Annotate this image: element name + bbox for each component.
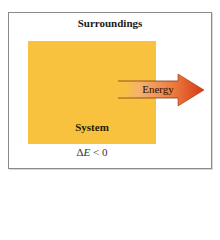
inequality: < 0 <box>90 146 107 158</box>
system-label: System <box>28 121 156 133</box>
delta-symbol: Δ <box>76 146 83 158</box>
energy-label: Energy <box>136 83 180 95</box>
delta-e-equation: ΔE < 0 <box>60 146 124 158</box>
